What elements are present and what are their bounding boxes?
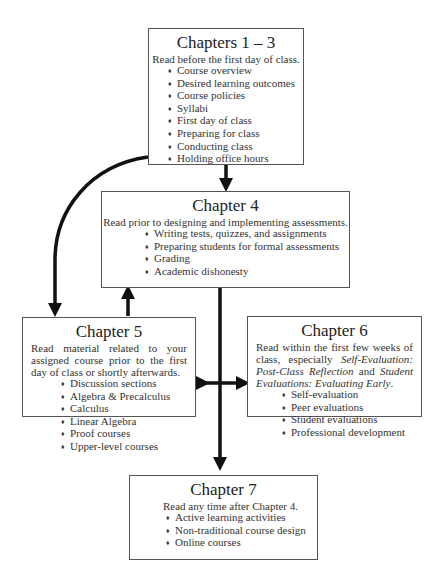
bullet-icon: ♦: [145, 229, 154, 241]
bullet-icon: ♦: [61, 442, 70, 454]
list-item: ♦Professional development: [282, 427, 421, 440]
chapter-6-list: ♦Self-evaluation ♦Peer evaluations ♦Stud…: [248, 389, 421, 439]
bullet-icon: ♦: [168, 142, 177, 154]
bullet-icon: ♦: [168, 79, 177, 91]
bullet-icon: ♦: [282, 390, 291, 402]
chapter-4-title: Chapter 4: [102, 196, 349, 216]
bullet-icon: ♦: [61, 392, 70, 404]
chapter-7-title: Chapter 7: [130, 480, 317, 500]
box-chapter-7: Chapter 7 Read any time after Chapter 4.…: [129, 475, 318, 560]
bullet-icon: ♦: [168, 116, 177, 128]
chapter-4-list: ♦Writing tests, quizzes, and assignments…: [102, 228, 349, 278]
bullet-icon: ♦: [61, 429, 70, 441]
list-item: ♦Upper-level courses: [61, 441, 195, 454]
box-chapter-5: Chapter 5 Read material related to your …: [22, 317, 196, 417]
bullet-icon: ♦: [282, 428, 291, 440]
bullet-icon: ♦: [282, 415, 291, 427]
bullet-icon: ♦: [282, 403, 291, 415]
chapter-5-description: Read material related to your assigned c…: [23, 342, 195, 378]
chapter-7-list: ♦Active learning activities ♦Non-traditi…: [130, 512, 317, 550]
bullet-icon: ♦: [166, 526, 175, 538]
bullet-icon: ♦: [145, 242, 154, 254]
bullet-icon: ♦: [61, 417, 70, 429]
bullet-icon: ♦: [168, 91, 177, 103]
bullet-icon: ♦: [145, 267, 154, 279]
chapter-6-description: Read within the first few weeks of class…: [248, 341, 421, 389]
bullet-icon: ♦: [168, 154, 177, 166]
bullet-icon: ♦: [61, 379, 70, 391]
chapters-1-3-title: Chapters 1 – 3: [149, 33, 303, 53]
list-item: ♦Holding office hours: [168, 153, 303, 166]
chapter-5-list: ♦Discussion sections ♦Algebra & Precalcu…: [23, 378, 195, 454]
bullet-icon: ♦: [168, 104, 177, 116]
box-chapters-1-3: Chapters 1 – 3 Read before the first day…: [148, 28, 304, 165]
bullet-icon: ♦: [168, 66, 177, 78]
chapter-6-title: Chapter 6: [248, 321, 421, 341]
list-item: ♦Online courses: [166, 537, 317, 550]
bullet-icon: ♦: [166, 513, 175, 525]
bullet-icon: ♦: [61, 404, 70, 416]
bullet-icon: ♦: [145, 254, 154, 266]
bullet-icon: ♦: [168, 129, 177, 141]
list-item: ♦Academic dishonesty: [145, 266, 349, 279]
box-chapter-4: Chapter 4 Read prior to designing and im…: [101, 191, 350, 288]
chapter-5-title: Chapter 5: [23, 322, 195, 342]
box-chapter-6: Chapter 6 Read within the first few week…: [247, 316, 422, 417]
bullet-icon: ♦: [166, 538, 175, 550]
chapters-1-3-list: ♦Course overview ♦Desired learning outco…: [149, 65, 303, 166]
